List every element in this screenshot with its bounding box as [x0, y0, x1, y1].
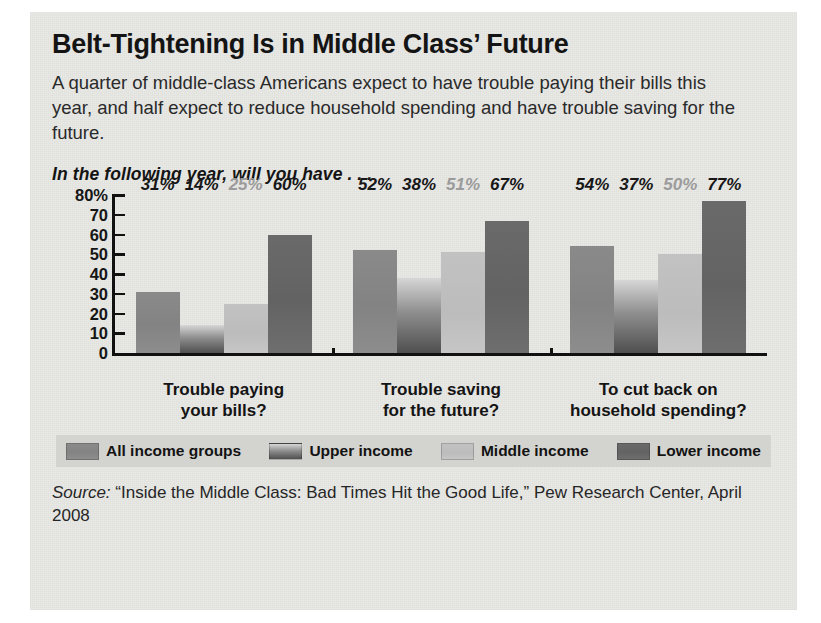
- source-text: “Inside the Middle Class: Bad Times Hit …: [52, 483, 742, 525]
- legend-item[interactable]: All income groups: [66, 442, 241, 460]
- y-axis-tick-label: 40: [90, 266, 108, 283]
- y-axis-tick: [112, 273, 125, 276]
- plot-area: 31%14%25%60%52%38%51%67%54%37%50%77%: [115, 195, 767, 353]
- bar-slot: 67%: [485, 195, 529, 353]
- y-axis-tick-label: 60: [90, 226, 108, 243]
- category-label: Trouble savingfor the future?: [332, 379, 549, 421]
- y-axis-tick-label: 10: [90, 325, 108, 342]
- legend-item[interactable]: Upper income: [269, 442, 412, 460]
- bar-value-label: 54%: [575, 176, 609, 193]
- bar[interactable]: 52%: [353, 250, 397, 353]
- category-label-line: your bills?: [115, 400, 332, 421]
- y-axis-tick: [112, 332, 125, 335]
- bar-slot: 51%: [441, 195, 485, 353]
- deck-paragraph: A quarter of middle-class Americans expe…: [52, 71, 742, 145]
- bar-value-label: 60%: [273, 176, 307, 193]
- bar-value-label: 25%: [229, 176, 263, 193]
- bar-slot: 31%: [136, 195, 180, 353]
- bar[interactable]: 54%: [570, 246, 614, 353]
- legend-swatch: [617, 443, 650, 460]
- category-label-line: for the future?: [332, 400, 549, 421]
- bar-slot: 37%: [614, 195, 658, 353]
- bar[interactable]: 51%: [441, 252, 485, 353]
- y-axis-tick-label: 70: [90, 207, 108, 224]
- category-labels: Trouble payingyour bills?Trouble savingf…: [115, 379, 767, 421]
- bar-slot: 77%: [702, 195, 746, 353]
- bar-chart: 80%706050403020100 31%14%25%60%52%38%51%…: [52, 195, 775, 370]
- y-axis-tick: [112, 313, 125, 316]
- legend-label: Lower income: [657, 442, 761, 460]
- category-label: To cut back onhousehold spending?: [550, 379, 767, 421]
- bar-value-label: 14%: [185, 176, 219, 193]
- bar-slot: 60%: [268, 195, 312, 353]
- bar-slot: 50%: [658, 195, 702, 353]
- bar-value-label: 52%: [358, 176, 392, 193]
- x-axis-group-separator: [332, 348, 335, 354]
- bar-slot: 38%: [397, 195, 441, 353]
- page-title: Belt-Tightening Is in Middle Class’ Futu…: [52, 30, 775, 58]
- y-axis-tick-label: 50: [90, 246, 108, 263]
- category-label: Trouble payingyour bills?: [115, 379, 332, 421]
- legend-swatch: [441, 443, 474, 460]
- x-axis-group-separator: [550, 348, 553, 354]
- bar-slot: 25%: [224, 195, 268, 353]
- y-axis-labels: 80%706050403020100: [52, 195, 108, 355]
- y-axis-tick-label: 20: [90, 305, 108, 322]
- y-axis-tick: [112, 293, 125, 296]
- bar-value-label: 67%: [490, 176, 524, 193]
- category-label-line: household spending?: [550, 400, 767, 421]
- bar-value-label: 38%: [402, 176, 436, 193]
- bar-group: 31%14%25%60%: [115, 195, 332, 353]
- legend-item[interactable]: Middle income: [441, 442, 589, 460]
- y-axis-tick-label: 80%: [75, 187, 108, 204]
- bar-value-label: 31%: [141, 176, 175, 193]
- bar-value-label: 77%: [707, 176, 741, 193]
- bar[interactable]: 67%: [485, 221, 529, 353]
- legend-swatch: [269, 443, 302, 460]
- bar[interactable]: 31%: [136, 292, 180, 353]
- bar[interactable]: 25%: [224, 304, 268, 353]
- bar-slot: 14%: [180, 195, 224, 353]
- bar[interactable]: 50%: [658, 254, 702, 353]
- legend-label: All income groups: [106, 442, 241, 460]
- category-label-line: Trouble saving: [332, 379, 549, 400]
- legend-swatch: [66, 443, 99, 460]
- bar[interactable]: 14%: [180, 325, 224, 353]
- y-axis-tick: [112, 194, 125, 197]
- bar[interactable]: 37%: [614, 280, 658, 353]
- source-note: Source: “Inside the Middle Class: Bad Ti…: [52, 482, 752, 528]
- y-axis-tick: [112, 214, 125, 217]
- bar-value-label: 51%: [446, 176, 480, 193]
- bar-slot: 52%: [353, 195, 397, 353]
- bar[interactable]: 77%: [702, 201, 746, 353]
- bar-slot: 54%: [570, 195, 614, 353]
- y-axis-tick: [112, 253, 125, 256]
- bar-value-label: 50%: [663, 176, 697, 193]
- category-label-line: Trouble paying: [115, 379, 332, 400]
- bar[interactable]: 60%: [268, 235, 312, 354]
- legend-label: Middle income: [481, 442, 589, 460]
- source-label: Source:: [52, 483, 111, 502]
- y-axis-tick-label: 30: [90, 286, 108, 303]
- legend-item[interactable]: Lower income: [617, 442, 761, 460]
- bar-group: 52%38%51%67%: [332, 195, 549, 353]
- y-axis-tick: [112, 234, 125, 237]
- bar[interactable]: 38%: [397, 278, 441, 353]
- y-axis-tick-label: 0: [99, 345, 108, 362]
- chart-legend: All income groupsUpper incomeMiddle inco…: [56, 435, 771, 467]
- legend-label: Upper income: [309, 442, 412, 460]
- bar-group: 54%37%50%77%: [550, 195, 767, 353]
- x-axis-baseline: [112, 353, 767, 356]
- figure-card: Belt-Tightening Is in Middle Class’ Futu…: [30, 12, 797, 610]
- bar-value-label: 37%: [619, 176, 653, 193]
- category-label-line: To cut back on: [550, 379, 767, 400]
